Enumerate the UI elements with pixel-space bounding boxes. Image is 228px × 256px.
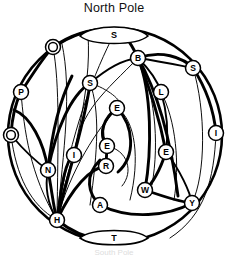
node-label: W bbox=[141, 185, 150, 195]
node-i-right[interactable]: I bbox=[209, 126, 224, 141]
node-label: S bbox=[87, 78, 93, 88]
node-p[interactable]: P bbox=[14, 85, 29, 100]
node-label: I bbox=[73, 150, 75, 160]
node-y[interactable]: Y bbox=[185, 196, 200, 211]
node-o-left[interactable] bbox=[4, 128, 19, 143]
node-e-center[interactable]: E bbox=[100, 139, 115, 154]
node-label: I bbox=[215, 128, 217, 138]
node-label: N bbox=[45, 165, 51, 175]
node-s-left[interactable]: S bbox=[83, 76, 98, 91]
node-label: L bbox=[158, 87, 163, 97]
node-label: A bbox=[97, 200, 103, 210]
node-label: E bbox=[104, 141, 110, 151]
lens-label-s: S bbox=[111, 30, 117, 40]
node-r[interactable]: R bbox=[99, 159, 114, 174]
node-h[interactable]: H bbox=[50, 213, 65, 228]
node-s-right[interactable]: S bbox=[186, 61, 201, 76]
node-label: E bbox=[163, 147, 169, 157]
node-o-upper-left[interactable] bbox=[46, 40, 61, 55]
node-i-center[interactable]: I bbox=[67, 148, 82, 163]
lens-label-t: T bbox=[111, 233, 117, 243]
node-inner-ring bbox=[7, 131, 16, 140]
globe-diagram-svg: B S S P L E I bbox=[0, 0, 228, 256]
node-label: S bbox=[190, 63, 196, 73]
node-label: R bbox=[103, 161, 109, 171]
figure-caption: South Pole bbox=[0, 248, 228, 256]
north-pole-globe-figure: North Pole bbox=[0, 0, 228, 256]
node-a[interactable]: A bbox=[93, 198, 108, 213]
node-b[interactable]: B bbox=[131, 51, 146, 66]
figure-title: North Pole bbox=[0, 1, 228, 15]
node-label: P bbox=[18, 87, 24, 97]
node-e-right[interactable]: E bbox=[159, 145, 174, 160]
node-l[interactable]: L bbox=[154, 85, 169, 100]
node-e-upper[interactable]: E bbox=[110, 101, 125, 116]
node-inner-ring bbox=[49, 43, 58, 52]
node-w[interactable]: W bbox=[138, 183, 153, 198]
node-label: Y bbox=[189, 198, 195, 208]
node-label: E bbox=[114, 103, 120, 113]
node-label: H bbox=[54, 215, 60, 225]
node-label: B bbox=[135, 53, 141, 63]
node-n[interactable]: N bbox=[41, 163, 56, 178]
